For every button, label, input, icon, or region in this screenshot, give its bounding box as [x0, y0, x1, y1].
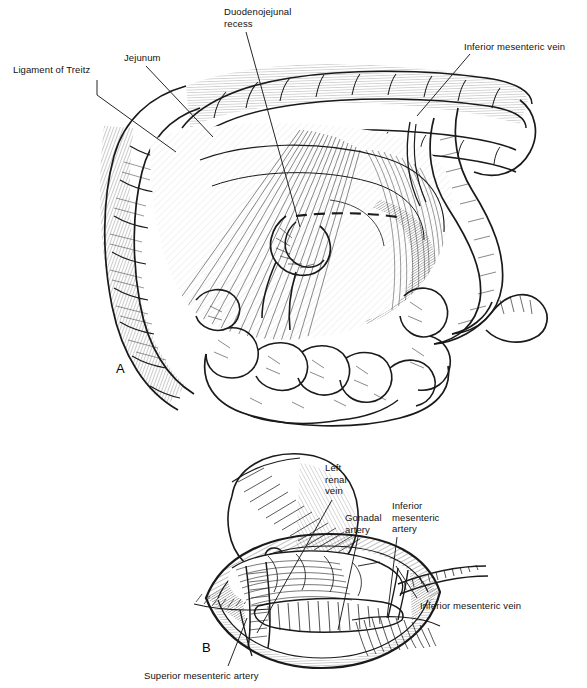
label-left-renal-vein: Left renal vein: [325, 462, 347, 497]
panel-letter-b: B: [202, 640, 211, 655]
anatomy-figure: Ligament of Treitz Jejunum Duodenojejuna…: [0, 0, 587, 688]
label-inferior-mesenteric-vein-a: Inferior mesenteric vein: [464, 41, 565, 53]
label-superior-mesenteric-artery: Superior mesenteric artery: [144, 670, 259, 682]
label-jejunum: Jejunum: [124, 52, 161, 64]
label-inferior-mesenteric-vein-b: Inferior mesenteric vein: [420, 600, 521, 612]
illustration-canvas: [0, 0, 587, 688]
label-gonadal-artery: Gonadal artery: [345, 512, 382, 535]
label-inferior-mesenteric-artery: Inferior mesenteric artery: [392, 500, 439, 535]
label-ligament-of-treitz: Ligament of Treitz: [13, 64, 90, 76]
panel-letter-a: A: [116, 361, 125, 376]
label-duodenojejunal-recess: Duodenojejunal recess: [224, 6, 291, 29]
